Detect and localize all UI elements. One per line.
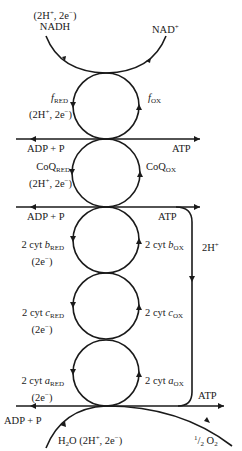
- coq-ox-label: CoQOX: [146, 161, 176, 176]
- cycle-cyt-b: [73, 207, 139, 273]
- adp-label-3: ADP + P: [4, 415, 42, 427]
- oxygen-label: 1/2 O2: [194, 432, 218, 450]
- atp-label-2: ATP: [158, 211, 177, 223]
- cycle-coq: [72, 139, 140, 207]
- coq-red-label: CoQRED: [2, 161, 70, 176]
- cycle-cyt-c: [73, 273, 139, 339]
- adp-label-1: ADP + P: [27, 143, 65, 155]
- cyt-c-red-note: (2e−): [20, 321, 64, 336]
- cyt-c-red-label: 2 cyt cRED: [2, 307, 64, 322]
- cyt-a-red-label: 2 cyt aRED: [2, 375, 64, 390]
- f-ox-label: fOX: [148, 92, 161, 107]
- nadh-arc: [46, 36, 166, 73]
- f-red-label: fRED: [2, 92, 68, 107]
- nadh-protons-label: (2H+, 2e−): [20, 7, 90, 22]
- cyt-a-red-note: (2e−): [20, 389, 64, 404]
- adp-label-2: ADP + P: [27, 211, 65, 223]
- cyt-b-ox-label: 2 cyt bOX: [145, 239, 184, 254]
- cyt-b-red-label: 2 cyt bRED: [2, 239, 64, 254]
- nadh-label: NADH: [20, 21, 90, 33]
- cycle-f: [73, 73, 139, 139]
- atp-label-1: ATP: [172, 143, 191, 155]
- coq-red-note: (2H+, 2e−): [2, 175, 72, 190]
- nad-plus-label: NAD+: [152, 21, 179, 36]
- cycle-cyt-a: [73, 340, 139, 406]
- cyt-a-ox-label: 2 cyt aOX: [145, 375, 184, 390]
- proton-label: 2H+: [202, 239, 219, 254]
- cyt-b-red-note: (2e−): [20, 253, 64, 268]
- water-label: H2O (2H+, 2e−): [58, 432, 122, 450]
- cyt-c-ox-label: 2 cyt cOX: [145, 307, 183, 322]
- atp-label-3: ATP: [198, 390, 217, 402]
- f-red-note: (2H+, 2e−): [2, 106, 72, 121]
